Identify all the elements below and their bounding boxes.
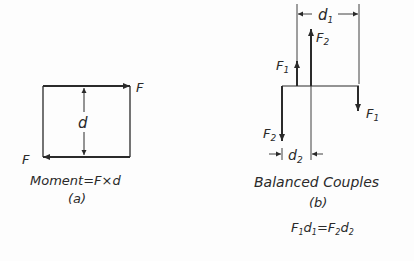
caption-b: Balanced Couples <box>254 174 379 190</box>
diagram-b: d1 F2 F1 F1 F2 d2 Balanced Couples (b) F… <box>254 4 379 237</box>
force-label-top: F <box>136 80 144 95</box>
sub-caption-a: (a) <box>68 191 86 206</box>
caption-a: Moment=F×d <box>30 173 121 188</box>
force-label-bottom: F <box>22 152 30 167</box>
f2-down-label: F2 <box>263 126 276 143</box>
distance-label: d <box>78 114 88 132</box>
diagram-canvas: d F F Moment=F×d (a) d1 F2 F1 F1 F2 <box>0 0 414 261</box>
equation: F1d1=F2d2 <box>291 220 354 237</box>
d1-label: d1 <box>318 6 333 25</box>
moment-couples-figure: d F F Moment=F×d (a) d1 F2 F1 F1 F2 <box>0 0 414 261</box>
sub-caption-b: (b) <box>309 195 327 210</box>
diagram-a: d F F Moment=F×d (a) <box>22 80 144 206</box>
f1-down-label: F1 <box>366 106 379 123</box>
f2-up-label: F2 <box>316 30 329 47</box>
f1-up-label: F1 <box>276 58 289 75</box>
d2-label: d2 <box>288 147 303 165</box>
